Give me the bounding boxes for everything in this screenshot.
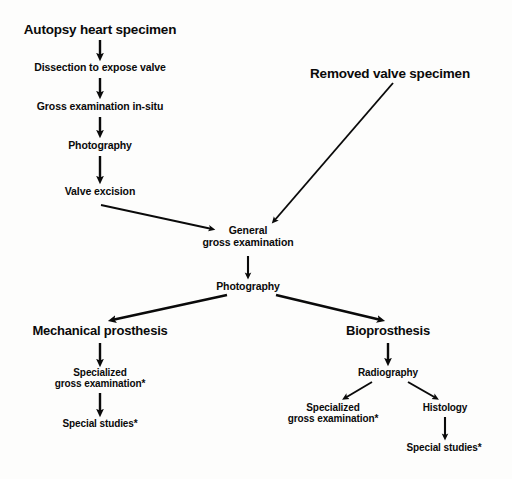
node-bio-special-studies: Special studies*: [406, 442, 481, 453]
edge-photography-to-mechanical-prosthesis: [112, 295, 227, 320]
node-gross-examination-in-situ: Gross examination in-situ: [37, 101, 163, 113]
node-general-gross-examination-line2: gross examination: [202, 237, 293, 249]
node-valve-excision: Valve excision: [65, 186, 135, 198]
node-radiography: Radiography: [358, 367, 418, 378]
edge-radiography-to-histology: [408, 382, 436, 398]
node-mechanical-specialized-line1: Specialized: [55, 367, 145, 378]
node-bio-specialized-gross-examination: Specializedgross examination*: [288, 402, 378, 424]
node-bio-specialized-line1: Specialized: [288, 402, 378, 413]
node-general-gross-examination: Generalgross examination: [202, 225, 293, 249]
node-histology: Histology: [423, 402, 468, 413]
node-mechanical-specialized-line2: gross examination*: [55, 378, 145, 389]
edge-removed-valve-to-general-gross-exam: [274, 83, 393, 221]
node-bio-specialized-line2: gross examination*: [288, 413, 378, 424]
flowchart-figure: Autopsy heart specimen Dissection to exp…: [0, 0, 512, 479]
node-dissection-to-expose-valve: Dissection to expose valve: [34, 62, 166, 74]
edge-radiography-to-specialized-gross-exam: [345, 382, 372, 398]
node-photography-mid: Photography: [216, 281, 280, 293]
node-general-gross-examination-line1: General: [202, 225, 293, 237]
edge-valve-excision-to-general-gross-exam: [101, 205, 212, 229]
node-removed-valve-specimen: Removed valve specimen: [310, 66, 470, 81]
node-mechanical-prosthesis: Mechanical prosthesis: [32, 324, 167, 339]
node-bioprosthesis: Bioprosthesis: [346, 324, 430, 339]
node-mechanical-special-studies: Special studies*: [62, 418, 137, 429]
node-autopsy-heart-specimen: Autopsy heart specimen: [24, 22, 176, 37]
node-photography-top: Photography: [68, 140, 132, 152]
node-mechanical-specialized-gross-examination: Specializedgross examination*: [55, 367, 145, 389]
edge-photography-to-bioprosthesis: [276, 295, 381, 320]
